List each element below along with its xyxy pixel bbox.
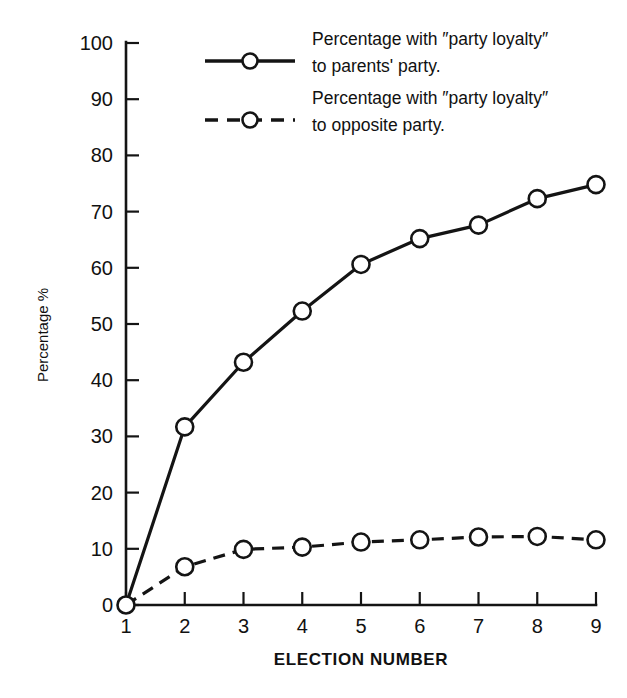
y-axis-title: Percentage % — [34, 288, 51, 382]
data-point-marker — [353, 256, 370, 273]
x-tick-label: 2 — [179, 615, 190, 637]
data-point-marker — [294, 303, 311, 320]
x-axis-title: ELECTION NUMBER — [274, 650, 448, 669]
legend-entry-parents-party: Percentage with ″party loyalty″ to paren… — [205, 29, 548, 76]
y-tick-label: 90 — [91, 88, 113, 110]
data-point-marker — [470, 217, 487, 234]
y-tick-label: 20 — [91, 482, 113, 504]
y-tick-label: 0 — [102, 594, 113, 616]
y-tick-label: 70 — [91, 201, 113, 223]
legend-label-opposite-party-line2: to opposite party. — [312, 115, 445, 135]
legend-label-opposite-party-line1: Percentage with ″party loyalty″ — [312, 88, 548, 108]
data-point-marker — [588, 531, 605, 548]
data-point-marker — [411, 230, 428, 247]
y-tick-label: 30 — [91, 425, 113, 447]
data-point-marker — [588, 176, 605, 193]
data-point-marker — [176, 558, 193, 575]
legend-label-parents-party-line1: Percentage with ″party loyalty″ — [312, 29, 548, 49]
y-tick-label: 100 — [80, 32, 113, 54]
data-point-marker — [529, 190, 546, 207]
x-tick-label: 5 — [355, 615, 366, 637]
y-tick-label: 10 — [91, 538, 113, 560]
legend-marker-open-circle-icon — [243, 54, 258, 69]
data-point-marker — [529, 528, 546, 545]
data-point-marker — [176, 418, 193, 435]
data-point-marker — [411, 531, 428, 548]
chart-figure: 0102030405060708090100 123456789 Percent… — [0, 0, 627, 698]
x-tick-label: 1 — [120, 615, 131, 637]
data-point-marker — [235, 354, 252, 371]
line-chart-svg: 0102030405060708090100 123456789 Percent… — [0, 0, 627, 698]
legend-entry-opposite-party: Percentage with ″party loyalty″ to oppos… — [205, 88, 548, 135]
y-tick-label: 50 — [91, 313, 113, 335]
legend-marker-open-circle-dashed-icon — [243, 113, 258, 128]
y-tick-label: 80 — [91, 144, 113, 166]
series-opposite-party — [126, 528, 605, 605]
y-tick-label: 60 — [91, 257, 113, 279]
x-tick-label: 4 — [297, 615, 308, 637]
data-point-marker — [470, 529, 487, 546]
x-tick-label: 3 — [238, 615, 249, 637]
data-point-marker — [353, 534, 370, 551]
data-point-marker — [235, 541, 252, 558]
data-point-marker — [294, 539, 311, 556]
y-tick-label: 40 — [91, 369, 113, 391]
legend-label-parents-party-line2: to parents' party. — [312, 56, 441, 76]
x-axis-ticks — [126, 592, 596, 605]
y-axis-ticks — [126, 43, 139, 605]
x-tick-label: 9 — [590, 615, 601, 637]
origin-data-point-marker — [118, 597, 135, 614]
chart-legend: Percentage with ″party loyalty″ to paren… — [205, 29, 548, 135]
x-axis-tick-labels: 123456789 — [120, 615, 601, 637]
x-tick-label: 8 — [532, 615, 543, 637]
x-tick-label: 6 — [414, 615, 425, 637]
x-tick-label: 7 — [473, 615, 484, 637]
series-layer — [118, 176, 605, 613]
y-axis-tick-labels: 0102030405060708090100 — [80, 32, 113, 616]
